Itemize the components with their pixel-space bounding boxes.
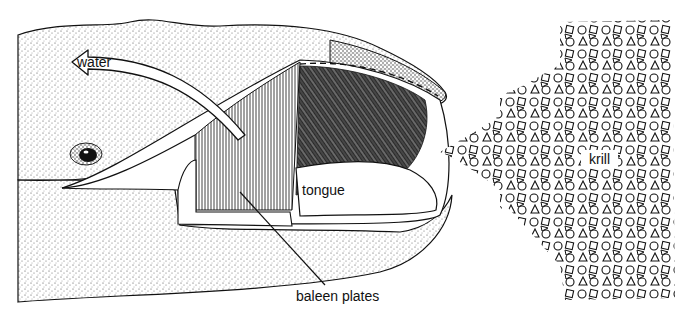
label-krill: krill (581, 150, 618, 168)
label-baleen-plates: baleen plates (296, 289, 379, 303)
eye-icon (70, 143, 102, 165)
label-water: water (77, 55, 111, 69)
label-tongue: tongue (302, 183, 345, 197)
krill-swarm (440, 20, 675, 300)
